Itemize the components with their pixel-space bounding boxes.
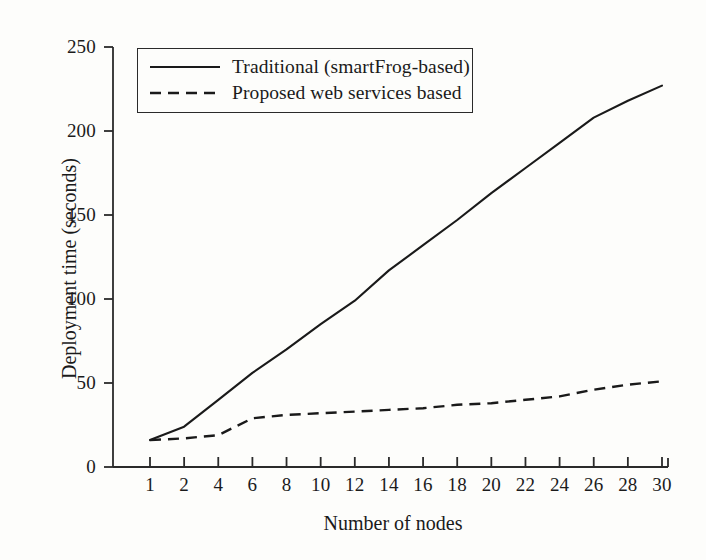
x-tick-label-16: 16 xyxy=(413,474,432,496)
legend-swatch-solid-icon xyxy=(148,60,222,74)
y-tick-label-0: 0 xyxy=(40,456,96,478)
x-tick-label-6: 6 xyxy=(248,474,258,496)
x-tick-label-8: 8 xyxy=(282,474,292,496)
x-tick-label-22: 22 xyxy=(516,474,535,496)
legend-label-traditional: Traditional (smartFrog-based) xyxy=(232,56,470,78)
x-tick-label-12: 12 xyxy=(345,474,364,496)
x-tick-label-30: 30 xyxy=(652,474,671,496)
legend-label-proposed: Proposed web services based xyxy=(232,82,462,104)
x-tick-label-14: 14 xyxy=(379,474,398,496)
series-proposed xyxy=(150,381,662,440)
legend-item-traditional: Traditional (smartFrog-based) xyxy=(148,54,462,80)
legend-item-proposed: Proposed web services based xyxy=(148,80,462,106)
chart-legend: Traditional (smartFrog-based) Proposed w… xyxy=(137,48,473,113)
series-traditional xyxy=(150,86,662,441)
y-axis xyxy=(104,47,113,467)
x-tick-label-2: 2 xyxy=(179,474,189,496)
x-tick-label-10: 10 xyxy=(311,474,330,496)
legend-swatch-dashed-icon xyxy=(148,86,222,100)
x-tick-label-28: 28 xyxy=(618,474,637,496)
x-tick-label-4: 4 xyxy=(213,474,223,496)
x-tick-label-18: 18 xyxy=(447,474,466,496)
x-tick-label-20: 20 xyxy=(482,474,501,496)
y-axis-title: Deployment time (seconds) xyxy=(58,104,81,434)
x-axis xyxy=(113,457,668,467)
x-axis-title: Number of nodes xyxy=(113,512,673,535)
x-tick-label-24: 24 xyxy=(550,474,569,496)
y-tick-label-250: 250 xyxy=(40,36,96,58)
x-tick-marks xyxy=(150,457,662,467)
chart-figure: 250200150100500 124681012141618202224262… xyxy=(0,0,706,560)
x-tick-label-26: 26 xyxy=(584,474,603,496)
x-tick-label-1: 1 xyxy=(145,474,155,496)
